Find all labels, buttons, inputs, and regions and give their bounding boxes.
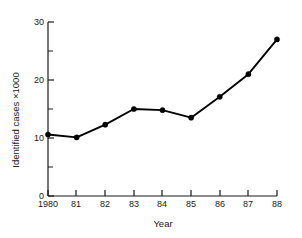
data-point-81 xyxy=(74,135,79,140)
x-axis-title: Year xyxy=(153,218,172,229)
data-point-87 xyxy=(246,72,251,77)
x-tick-label-88: 88 xyxy=(272,199,282,209)
y-axis-title: Identified cases ×1000 xyxy=(10,72,21,167)
x-tick-label-84: 84 xyxy=(157,199,167,209)
y-tick-label-30: 30 xyxy=(34,17,44,27)
y-tick-label-10: 10 xyxy=(34,133,44,143)
line-chart: 0 10 20 30 1980 81 82 83 84 85 86 87 xyxy=(0,0,302,238)
x-tick-label-81: 81 xyxy=(71,199,81,209)
data-point-85 xyxy=(189,115,194,120)
x-tick-label-83: 83 xyxy=(129,199,139,209)
y-tick-label-20: 20 xyxy=(34,75,44,85)
data-point-83 xyxy=(131,106,136,111)
x-tick-label-87: 87 xyxy=(243,199,253,209)
x-tick-label-1980: 1980 xyxy=(38,199,58,209)
data-point-88 xyxy=(274,37,279,42)
chart-container: 0 10 20 30 1980 81 82 83 84 85 86 87 xyxy=(0,0,302,238)
data-point-86 xyxy=(217,94,222,99)
x-tick-label-85: 85 xyxy=(186,199,196,209)
x-tick-label-86: 86 xyxy=(215,199,225,209)
data-point-1980 xyxy=(45,132,50,137)
x-axis-tick-labels: 1980 81 82 83 84 85 86 87 88 xyxy=(38,199,282,209)
data-point-82 xyxy=(103,122,108,127)
x-tick-label-82: 82 xyxy=(100,199,110,209)
data-point-84 xyxy=(160,108,165,113)
